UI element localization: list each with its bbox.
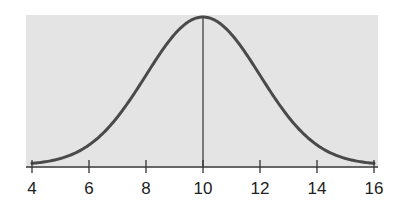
x-tick-label: 14 bbox=[308, 179, 327, 198]
x-tick-label: 4 bbox=[27, 179, 36, 198]
plot-area-background bbox=[26, 15, 378, 166]
normal-distribution-chart: 46810121416 bbox=[0, 0, 404, 207]
x-tick-label: 6 bbox=[84, 179, 93, 198]
x-tick-label: 10 bbox=[194, 179, 213, 198]
x-tick-label: 12 bbox=[251, 179, 270, 198]
x-tick-label: 16 bbox=[365, 179, 384, 198]
x-tick-label: 8 bbox=[141, 179, 150, 198]
x-axis-tick-labels: 46810121416 bbox=[27, 179, 383, 198]
